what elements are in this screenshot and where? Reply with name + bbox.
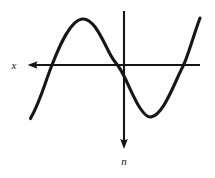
x-axis-label: x: [11, 59, 17, 71]
figure-container: x n: [0, 0, 215, 178]
cubic-curve-diagram: x n: [0, 0, 215, 178]
n-axis-label: n: [121, 155, 127, 167]
figure-background: [0, 0, 215, 178]
